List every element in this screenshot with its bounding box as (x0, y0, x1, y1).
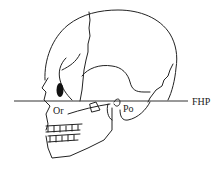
zygomatic-line (62, 54, 80, 70)
label-porion: Po (123, 103, 134, 114)
zygomatic-arch (68, 104, 110, 114)
face-profile (42, 78, 50, 130)
cranium-outline (45, 10, 177, 100)
condyle (107, 104, 112, 120)
temporal-squamous (82, 65, 150, 92)
lower-teeth (48, 134, 80, 142)
label-orbitale: Or (53, 105, 64, 116)
label-fhp: FHP (192, 96, 211, 107)
skull-diagram: Or Po FHP (0, 0, 217, 173)
upper-teeth (46, 124, 82, 132)
external-acoustic-meatus (114, 99, 120, 106)
orbit-fill (57, 83, 64, 97)
coronal-suture (80, 12, 90, 101)
